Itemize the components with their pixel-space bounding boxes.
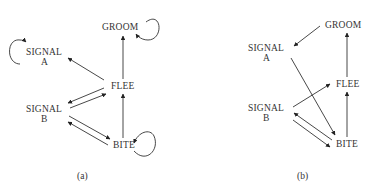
- node-signal-b-b-line1: SIGNAL: [248, 103, 284, 113]
- node-signal-a-a-line2: A: [41, 57, 48, 67]
- caption-a: (a): [77, 171, 88, 182]
- edge-bite-self-loop-a: [134, 132, 155, 156]
- node-signal-a-a-line1: SIGNAL: [26, 47, 62, 57]
- panel-b: GROOM SIGNAL A FLEE SIGNAL B BITE (b): [248, 20, 362, 182]
- edge-flee-to-signal-a-a: [68, 58, 104, 80]
- panel-a: GROOM SIGNAL A FLEE SIGNAL B BITE (a): [10, 19, 160, 182]
- edge-groom-self-loop-a: [136, 19, 159, 40]
- edge-signal-a-self-loop-a: [10, 40, 27, 64]
- node-signal-a-b-line1: SIGNAL: [248, 43, 284, 53]
- edge-signal-b-to-flee-b: [293, 84, 330, 107]
- node-flee-a: FLEE: [111, 81, 135, 91]
- edge-signal-b-to-bite-a: [69, 116, 110, 139]
- edge-groom-to-signal-a-b: [294, 26, 320, 46]
- caption-b: (b): [297, 171, 308, 182]
- diagram-canvas: GROOM SIGNAL A FLEE SIGNAL B BITE (a) GR…: [0, 0, 375, 186]
- edge-signal-b-to-flee-a: [70, 94, 106, 108]
- edge-flee-to-signal-b-a: [68, 88, 104, 103]
- node-signal-b-a-line2: B: [41, 114, 48, 124]
- node-signal-b-a-line1: SIGNAL: [26, 104, 62, 114]
- node-signal-b-b-line2: B: [263, 113, 270, 123]
- node-bite-a: BITE: [113, 140, 135, 150]
- node-groom-b: GROOM: [325, 20, 362, 30]
- node-flee-b: FLEE: [336, 79, 360, 89]
- node-groom-a: GROOM: [102, 22, 139, 32]
- node-bite-b: BITE: [336, 139, 358, 149]
- edge-bite-to-signal-b-a: [68, 122, 108, 145]
- node-signal-a-b-line2: A: [263, 53, 270, 63]
- edge-signal-b-to-bite-b: [293, 120, 330, 147]
- edge-bite-to-signal-b-b: [294, 113, 332, 140]
